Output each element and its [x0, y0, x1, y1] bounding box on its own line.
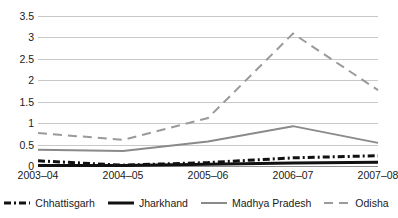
- legend-item-jharkhand[interactable]: Jharkhand: [108, 198, 188, 209]
- legend-item-chhattisgarh[interactable]: Chhattisgarh: [4, 198, 95, 209]
- y-tick-label: 1.5: [19, 96, 34, 107]
- legend-swatch-solid: [201, 198, 227, 208]
- y-tick-label: 3: [28, 32, 34, 43]
- legend-item-odisha[interactable]: Odisha: [324, 198, 388, 209]
- y-tick-label: 2.5: [19, 54, 34, 65]
- y-tick-label: 0.5: [19, 139, 34, 150]
- series-layer: [38, 16, 378, 166]
- legend-swatch-dash-dot: [4, 198, 30, 208]
- y-tick-label: 3.5: [19, 11, 34, 22]
- y-tick-label: 2: [28, 75, 34, 86]
- x-tick-label: 2006–07: [273, 170, 314, 181]
- y-axis: 00.511.522.533.5: [0, 16, 34, 166]
- legend-swatch-solid: [108, 198, 134, 208]
- x-tick-label: 2004–05: [103, 170, 144, 181]
- x-tick-label: 2007–08: [358, 170, 398, 181]
- legend-label: Odisha: [355, 198, 388, 209]
- x-tick-label: 2005–06: [188, 170, 229, 181]
- legend-label: Chhattisgarh: [35, 198, 95, 209]
- plot-area: [38, 16, 378, 166]
- x-tick-label: 2003–04: [18, 170, 59, 181]
- x-axis: 2003–042004–052005–062006–072007–08: [38, 170, 378, 186]
- legend-item-madhya-pradesh[interactable]: Madhya Pradesh: [201, 198, 311, 209]
- y-tick-label: 1: [28, 118, 34, 129]
- series-line-madhya-pradesh: [38, 126, 378, 151]
- legend-swatch-dashed: [324, 198, 350, 208]
- series-line-odisha: [38, 34, 378, 140]
- chart-legend: ChhattisgarhJharkhandMadhya PradeshOdish…: [0, 194, 393, 212]
- legend-label: Madhya Pradesh: [232, 198, 311, 209]
- legend-label: Jharkhand: [139, 198, 188, 209]
